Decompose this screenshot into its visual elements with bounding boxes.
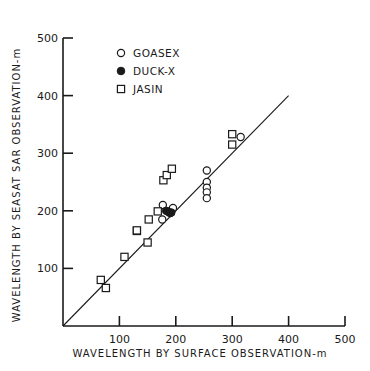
scatter-chart: 100200300400500100200300400500 GOASEXDUC… [0, 0, 370, 371]
y-axis-title: WAVELENGTH BY SEASAT SAR OBSERVATION-m [11, 48, 22, 322]
x-tick-label: 400 [278, 333, 299, 346]
x-tick-label: 100 [109, 333, 130, 346]
legend-marker-icon [117, 85, 124, 92]
x-tick-label: 300 [222, 333, 243, 346]
data-point [237, 133, 244, 140]
data-point [159, 216, 166, 223]
x-tick-label: 500 [335, 333, 356, 346]
data-point [102, 284, 109, 291]
legend-item: DUCK-X [117, 65, 175, 77]
data-point [229, 141, 236, 148]
x-axis-title: WAVELENGTH BY SURFACE OBSERVATION-m [72, 348, 327, 359]
data-point [154, 208, 161, 215]
data-point [229, 131, 236, 138]
legend-label: GOASEX [133, 47, 180, 59]
data-point [144, 239, 151, 246]
legend-label: JASIN [132, 83, 163, 95]
data-point [121, 253, 128, 260]
legend-marker-icon [117, 49, 124, 56]
data-point [167, 209, 175, 217]
data-point [145, 216, 152, 223]
data-point [133, 227, 140, 234]
legend: GOASEXDUCK-XJASIN [117, 47, 180, 95]
axes: 100200300400500100200300400500 [37, 32, 356, 346]
data-point [203, 167, 210, 174]
y-tick-label: 400 [37, 90, 58, 103]
data-point [97, 276, 104, 283]
legend-marker-icon [117, 67, 125, 75]
data-points [97, 131, 244, 292]
y-tick-label: 100 [37, 262, 58, 275]
legend-item: JASIN [117, 83, 163, 95]
data-point [168, 165, 175, 172]
legend-item: GOASEX [117, 47, 180, 59]
x-tick-label: 200 [165, 333, 186, 346]
legend-label: DUCK-X [133, 65, 175, 77]
y-tick-label: 200 [37, 205, 58, 218]
y-tick-label: 500 [37, 32, 58, 45]
y-tick-label: 300 [37, 147, 58, 160]
data-point [203, 195, 210, 202]
